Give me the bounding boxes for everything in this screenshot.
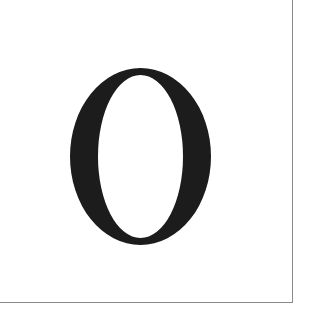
letter-o-glyph	[0, 0, 313, 334]
letter-o-shape	[70, 68, 211, 245]
